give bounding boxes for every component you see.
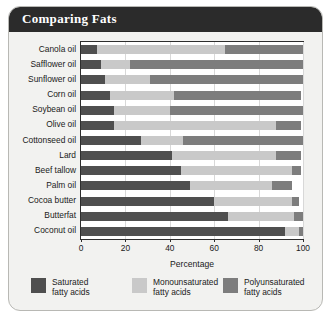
legend-swatch xyxy=(132,278,147,293)
bar-stack xyxy=(81,227,303,236)
legend-swatch xyxy=(31,278,46,293)
legend-item[interactable]: Monounsaturated fatty acids xyxy=(132,278,218,297)
bar-segment xyxy=(81,91,110,100)
bar-segment xyxy=(170,106,303,115)
bar-segment xyxy=(81,151,172,160)
bar-stack xyxy=(81,91,301,100)
bar-segment xyxy=(292,166,301,175)
legend-label: Polyunsaturated fatty acids xyxy=(244,278,305,297)
bar-segment xyxy=(81,136,141,145)
y-axis-label: Cottonseed oil xyxy=(22,136,76,145)
bar-stack xyxy=(81,60,303,69)
y-axis-label: Canola oil xyxy=(39,45,76,54)
y-axis-label: Soybean oil xyxy=(32,105,76,114)
x-axis-title: Percentage xyxy=(80,259,304,269)
bar-segment xyxy=(81,227,285,236)
bar-segment xyxy=(228,212,295,221)
y-axis-label: Beef tallow xyxy=(35,166,76,175)
plot-area: 020406080100 Canola oilSafflower oilSunf… xyxy=(9,32,323,311)
bar-segment xyxy=(172,151,276,160)
bar-stack xyxy=(81,136,303,145)
bar-stack xyxy=(81,197,299,206)
bar-segment xyxy=(101,60,130,69)
bar-segment xyxy=(225,45,303,54)
bar-stack xyxy=(81,45,303,54)
panel-title-bar: Comparing Fats xyxy=(9,7,322,32)
bar-segment xyxy=(299,227,303,236)
x-axis-tick-label: 0 xyxy=(66,243,96,253)
bar-segment xyxy=(81,60,101,69)
plot-frame xyxy=(80,41,304,240)
bar-segment xyxy=(81,197,214,206)
bar-segment xyxy=(276,121,300,130)
page-title: Comparing Fats xyxy=(22,11,117,27)
bar-segment xyxy=(81,121,114,130)
legend-item[interactable]: Polyunsaturated fatty acids xyxy=(223,278,305,297)
bar-segment xyxy=(81,106,114,115)
bar-segment xyxy=(130,60,303,69)
x-axis-tick-label: 80 xyxy=(244,243,274,253)
bar-segment xyxy=(81,166,181,175)
legend-item[interactable]: Saturated fatty acids xyxy=(31,278,90,297)
bar-segment xyxy=(183,136,303,145)
y-axis-label: Corn oil xyxy=(47,90,76,99)
bar-segment xyxy=(276,151,300,160)
x-axis-tick-label: 40 xyxy=(155,243,185,253)
x-axis-tick-label: 20 xyxy=(110,243,140,253)
bar-segment xyxy=(141,136,183,145)
y-axis-label: Lard xyxy=(59,151,76,160)
legend-label: Saturated fatty acids xyxy=(52,278,90,297)
bar-segment xyxy=(81,45,97,54)
bar-segment xyxy=(285,227,298,236)
bar-segment xyxy=(81,181,190,190)
y-axis-label: Cocoa butter xyxy=(28,196,76,205)
bar-segment xyxy=(181,166,292,175)
y-axis-label: Sunflower oil xyxy=(28,75,76,84)
bar-segment xyxy=(114,121,276,130)
bar-segment xyxy=(214,197,292,206)
y-axis-label: Safflower oil xyxy=(31,60,76,69)
bar-segment xyxy=(292,197,299,206)
x-axis-tick-label: 100 xyxy=(288,243,318,253)
bar-segment xyxy=(81,75,105,84)
bar-segment xyxy=(272,181,292,190)
bar-segment xyxy=(174,91,301,100)
bar-stack xyxy=(81,121,301,130)
y-axis-label: Palm oil xyxy=(46,181,76,190)
y-axis-label: Coconut oil xyxy=(34,226,76,235)
chart-panel: Comparing Fats 020406080100 Canola oilSa… xyxy=(8,6,323,311)
bar-segment xyxy=(81,212,228,221)
x-axis-tick xyxy=(303,239,304,242)
bar-segment xyxy=(294,212,303,221)
x-axis-tick xyxy=(214,239,215,242)
bar-segment xyxy=(114,106,170,115)
x-axis-tick xyxy=(259,239,260,242)
gridline xyxy=(303,42,304,239)
bar-stack xyxy=(81,75,303,84)
x-axis-tick xyxy=(125,239,126,242)
legend-swatch xyxy=(223,278,238,293)
x-axis-tick xyxy=(81,239,82,242)
bar-stack xyxy=(81,181,292,190)
y-axis-label: Butterfat xyxy=(44,211,76,220)
y-axis-label: Olive oil xyxy=(46,120,76,129)
x-axis-tick xyxy=(170,239,171,242)
bar-stack xyxy=(81,106,303,115)
chart-legend: Saturated fatty acidsMonounsaturated fat… xyxy=(9,272,323,311)
bar-stack xyxy=(81,151,301,160)
bar-segment xyxy=(105,75,149,84)
bar-stack xyxy=(81,212,303,221)
legend-label: Monounsaturated fatty acids xyxy=(153,278,218,297)
bar-stack xyxy=(81,166,301,175)
bar-segment xyxy=(97,45,226,54)
x-axis-tick-label: 60 xyxy=(199,243,229,253)
bar-segment xyxy=(190,181,272,190)
bar-segment xyxy=(150,75,303,84)
bar-segment xyxy=(110,91,174,100)
